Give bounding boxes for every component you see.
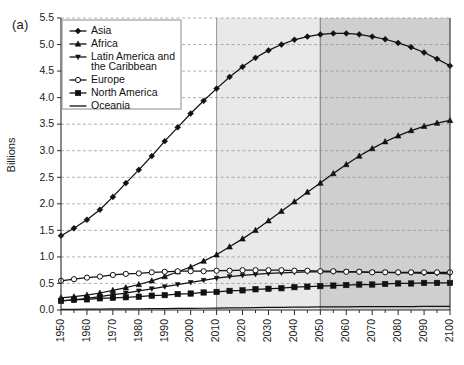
x-tick-label: 2070 — [365, 319, 377, 343]
marker-circle-open — [123, 271, 128, 276]
marker-square — [292, 284, 297, 289]
marker-square — [71, 297, 76, 302]
y-tick-label: 5.0 — [39, 38, 54, 50]
marker-circle-open — [75, 77, 80, 82]
marker-square — [227, 288, 232, 293]
marker-circle-open — [331, 269, 336, 274]
marker-square — [344, 282, 349, 287]
legend-label: Africa — [91, 37, 118, 49]
y-tick-label: 3.0 — [39, 144, 54, 156]
marker-square — [434, 280, 439, 285]
y-tick-label: 5.5 — [39, 11, 54, 23]
marker-circle-open — [318, 269, 323, 274]
legend: AsiaAfricaLatin America andthe Caribbean… — [62, 20, 181, 111]
x-tick-label: 1970 — [106, 319, 118, 343]
marker-circle-open — [305, 268, 310, 273]
projection-band-projection-far — [320, 18, 450, 310]
y-tick-label: 4.5 — [39, 64, 54, 76]
marker-square — [123, 295, 128, 300]
marker-square — [357, 282, 362, 287]
x-tick-label: 2000 — [183, 319, 195, 343]
y-tick-label: 4.0 — [39, 91, 54, 103]
legend-label: North America — [91, 86, 158, 98]
legend-label: Oceania — [91, 99, 130, 111]
marker-circle-open — [409, 270, 414, 275]
marker-square — [97, 296, 102, 301]
marker-square — [305, 284, 310, 289]
x-tick-label: 1990 — [158, 319, 170, 343]
y-tick-label: 0.5 — [39, 277, 54, 289]
marker-circle-open — [357, 269, 362, 274]
marker-square — [188, 291, 193, 296]
legend-label: the Caribbean — [91, 60, 157, 72]
marker-circle-open — [370, 270, 375, 275]
marker-circle-open — [201, 269, 206, 274]
x-tick-label: 2080 — [391, 319, 403, 343]
marker-circle-open — [110, 272, 115, 277]
y-tick-label: 1.5 — [39, 224, 54, 236]
x-tick-label: 2010 — [209, 319, 221, 343]
marker-circle-open — [84, 275, 89, 280]
marker-circle-open — [344, 269, 349, 274]
marker-circle-open — [188, 269, 193, 274]
legend-label: Europe — [91, 73, 125, 85]
marker-square — [175, 291, 180, 296]
marker-square — [136, 294, 141, 299]
x-tick-label: 2090 — [417, 319, 429, 343]
marker-square — [370, 282, 375, 287]
x-tick-label: 1980 — [132, 319, 144, 343]
y-tick-label: 2.5 — [39, 171, 54, 183]
y-tick-label: 2.0 — [39, 197, 54, 209]
marker-circle-open — [136, 271, 141, 276]
x-tick-label: 2040 — [287, 319, 299, 343]
marker-square — [253, 287, 258, 292]
x-tick-label: 2050 — [313, 319, 325, 343]
marker-square — [331, 283, 336, 288]
marker-circle-open — [214, 268, 219, 273]
marker-square — [408, 281, 413, 286]
x-tick-label: 2060 — [339, 319, 351, 343]
marker-circle-open — [175, 269, 180, 274]
x-tick-label: 2100 — [443, 319, 455, 343]
marker-circle-open — [434, 270, 439, 275]
marker-square — [395, 281, 400, 286]
marker-circle-open — [97, 274, 102, 279]
marker-square — [421, 280, 426, 285]
marker-square — [201, 290, 206, 295]
x-tick-label: 1960 — [80, 319, 92, 343]
projection-band-projection-near — [217, 18, 321, 310]
marker-square — [75, 90, 80, 95]
marker-circle-open — [396, 270, 401, 275]
marker-circle-open — [383, 270, 388, 275]
marker-square — [279, 286, 284, 291]
y-tick-label: 0.0 — [39, 303, 54, 315]
marker-square — [318, 283, 323, 288]
legend-label: Asia — [91, 24, 112, 36]
x-tick-label: 2020 — [235, 319, 247, 343]
marker-circle-open — [266, 268, 271, 273]
marker-square — [266, 286, 271, 291]
y-tick-label: 1.0 — [39, 250, 54, 262]
x-tick-label: 1950 — [54, 319, 66, 343]
marker-square — [149, 293, 154, 298]
y-tick-label: 3.5 — [39, 117, 54, 129]
marker-square — [240, 288, 245, 293]
marker-square — [162, 292, 167, 297]
marker-circle-open — [162, 269, 167, 274]
marker-circle-open — [240, 268, 245, 273]
marker-circle-open — [421, 270, 426, 275]
marker-circle-open — [253, 268, 258, 273]
marker-square — [110, 295, 115, 300]
line-chart: 0.00.51.01.52.02.53.03.54.04.55.05.51950… — [0, 0, 464, 365]
marker-circle-open — [227, 268, 232, 273]
marker-square — [382, 281, 387, 286]
marker-square — [214, 289, 219, 294]
marker-circle-open — [292, 268, 297, 273]
figure-panel: (a) Billions 0.00.51.01.52.02.53.03.54.0… — [0, 0, 464, 365]
x-tick-label: 2030 — [261, 319, 273, 343]
marker-circle-open — [71, 277, 76, 282]
marker-square — [84, 297, 89, 302]
marker-circle-open — [149, 270, 154, 275]
marker-circle-open — [279, 268, 284, 273]
